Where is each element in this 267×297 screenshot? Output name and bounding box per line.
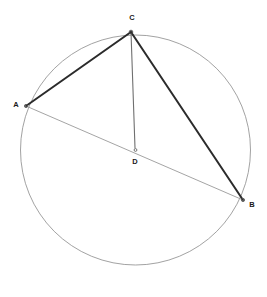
geometry-diagram-canvas: A B C D (0, 0, 267, 297)
vertex-marker-d (134, 149, 137, 152)
vertex-label-a: A (13, 100, 19, 109)
main-circle (21, 35, 251, 265)
vertex-label-b: B (249, 200, 255, 209)
segment-c-a (26, 32, 131, 106)
segment-c-b (131, 32, 243, 200)
geometry-svg: A B C D (0, 0, 267, 297)
vertex-label-d: D (132, 157, 138, 166)
vertex-label-c: C (129, 13, 135, 22)
segment-c-d (131, 32, 135, 148)
